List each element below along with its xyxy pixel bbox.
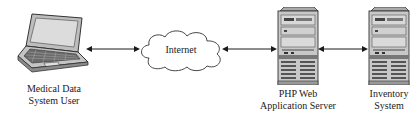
inventory-label: Inventory System (354, 88, 417, 112)
laptop-icon (16, 12, 90, 76)
user-label-line1: Medical Data (6, 83, 102, 95)
php-server-label: PHP Web Application Server (242, 88, 354, 112)
arrow-user-internet (86, 44, 140, 54)
inventory-label-line1: Inventory (354, 88, 417, 100)
php-server-label-line2: Application Server (242, 100, 354, 112)
php-server-label-line1: PHP Web (242, 88, 354, 100)
user-label-line2: System User (6, 95, 102, 107)
inventory-server-icon (367, 7, 411, 85)
php-server-icon (276, 7, 320, 85)
arrow-php-server-inventory (318, 44, 368, 54)
inventory-label-line2: System (354, 100, 417, 112)
arrow-internet-php-server (222, 44, 277, 54)
user-label: Medical Data System User (6, 83, 102, 107)
internet-label: Internet (137, 44, 225, 56)
